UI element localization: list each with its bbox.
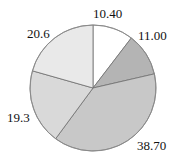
data-label-11-00: 11.00 <box>138 29 167 42</box>
data-label-20-6: 20.6 <box>27 27 50 40</box>
data-label-10-40: 10.40 <box>93 7 122 20</box>
data-label-19-3: 19.3 <box>7 111 30 124</box>
data-label-38-70: 38.70 <box>137 139 166 152</box>
